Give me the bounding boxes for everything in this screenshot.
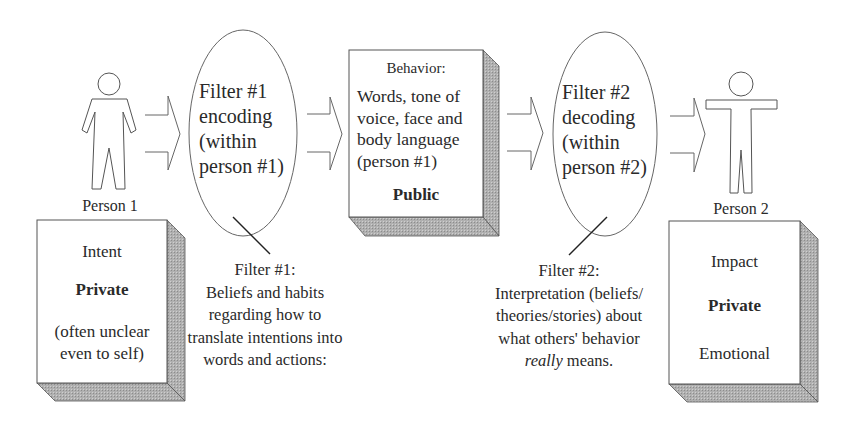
filter1-caption: Filter #1: Beliefs and habits regarding … (165, 259, 365, 372)
behavior-line-1: Words, tone of (357, 86, 483, 108)
intent-note-1: (often unclear (37, 321, 167, 343)
person-standing-icon (82, 73, 136, 189)
filter1-caption-line-4: translate intentions into (165, 327, 365, 350)
filter2-caption-line-4: what others' behavior (469, 328, 669, 351)
really-emphasis: really (525, 351, 563, 370)
arrow-right-icon (145, 96, 180, 170)
arrow-right-icon (670, 98, 705, 172)
intent-box: Intent Private (often unclear even to se… (37, 241, 167, 365)
impact-emotional-label: Emotional (669, 343, 800, 365)
behavior-box: Behavior: Words, tone of voice, face and… (349, 52, 483, 206)
intent-note-2: even to self) (37, 343, 167, 365)
person-arms-out-icon (706, 72, 777, 193)
filter2-ellipse-text: Filter #2 decoding (within person #2) (562, 80, 647, 180)
filter2-subtitle: decoding (562, 105, 647, 130)
filter1-title: Filter #1 (199, 79, 284, 104)
filter1-subtitle: encoding (199, 104, 284, 129)
behavior-public-label: Public (349, 184, 483, 206)
behavior-title: Behavior: (349, 58, 483, 78)
filter1-ellipse-text: Filter #1 encoding (within person #1) (199, 79, 284, 179)
person2-label: Person 2 (693, 199, 789, 219)
behavior-line-4: (person #1) (357, 151, 483, 173)
behavior-line-2: voice, face and (357, 108, 483, 130)
filter1-caption-line-2: Beliefs and habits (165, 282, 365, 305)
impact-label: Impact (669, 251, 800, 273)
filter1-caption-title: Filter #1: (165, 259, 365, 282)
filter2-caption-title: Filter #2: (469, 260, 669, 283)
filter1-note-1: (within (199, 129, 284, 154)
filter2-note-2: person #2) (562, 155, 647, 180)
person1-label: Person 1 (62, 196, 158, 216)
filter2-caption-line-3: theories/stories) about (469, 305, 669, 328)
arrow-right-icon (307, 97, 342, 170)
filter2-caption: Filter #2: Interpretation (beliefs/ theo… (469, 260, 669, 373)
arrow-right-icon (507, 97, 543, 170)
behavior-line-3: body language (357, 129, 483, 151)
intent-label: Intent (37, 241, 167, 263)
impact-box: Impact Private Emotional (669, 251, 800, 365)
filter1-caption-line-5: words and actions: (165, 349, 365, 372)
filter2-caption-line-5: really means. (469, 350, 669, 373)
impact-private-label: Private (669, 295, 800, 317)
filter1-caption-line-3: regarding how to (165, 304, 365, 327)
filter2-caption-line-5-rest: means. (563, 351, 613, 370)
filter2-caption-line-2: Interpretation (beliefs/ (469, 283, 669, 306)
filter1-note-2: person #1) (199, 154, 284, 179)
filter2-note-1: (within (562, 130, 647, 155)
filter2-title: Filter #2 (562, 80, 647, 105)
intent-private-label: Private (37, 279, 167, 301)
